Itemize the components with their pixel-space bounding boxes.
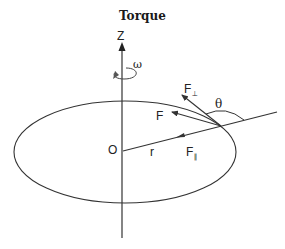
theta-label: θ [215, 98, 222, 110]
radius-line [123, 112, 277, 151]
torque-diagram [0, 0, 285, 249]
omega-label: ω [133, 59, 142, 70]
f-parallel-arrowhead-icon [176, 133, 185, 138]
f-vector [172, 112, 221, 126]
force-perp-label: F⊥ [184, 83, 198, 95]
origin-label: O [108, 144, 117, 156]
rotation-plane-ellipse [14, 101, 236, 203]
force-parallel-label: F∥ [186, 146, 197, 158]
force-parallel-base: F [186, 145, 193, 159]
force-perp-subscript: ⊥ [192, 90, 198, 97]
radius-label: r [150, 146, 154, 158]
force-label: F [156, 110, 163, 122]
force-perp-base: F [184, 82, 191, 96]
force-parallel-subscript: ∥ [194, 153, 198, 160]
z-axis-label: Z [117, 30, 124, 42]
z-axis-arrowhead-icon [119, 42, 126, 51]
